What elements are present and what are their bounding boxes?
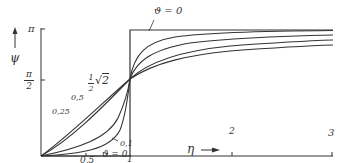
y-tick-pi: π (28, 24, 35, 34)
curve-half-sqrt2 (41, 45, 333, 156)
x-arrow-icon (212, 148, 220, 153)
curve-0-1 (41, 31, 333, 157)
label-theta-0-bottom: ϑ = 0 (102, 150, 127, 159)
label-0-5: 0,5 (71, 94, 84, 102)
label-0-1: 0,1 (120, 140, 133, 148)
chart-plot (0, 0, 342, 163)
y-tick-pi-half: π 2 (24, 70, 34, 91)
curve-theta-0 (41, 30, 333, 156)
y-arrow-icon (13, 27, 18, 34)
x-axis-label: η (187, 143, 194, 155)
label-theta-0-top: ϑ = 0 (154, 6, 182, 16)
x-tick-1: 1 (127, 155, 133, 163)
x-tick-0-5: 0,5 (80, 156, 94, 163)
label-0-25: 0,25 (52, 108, 70, 116)
y-axis-label: ψ (10, 52, 19, 64)
x-tick-3: 3 (328, 128, 334, 138)
label-half-sqrt2-radical: √2 (95, 75, 109, 86)
x-tick-2: 2 (229, 127, 235, 136)
label-half-sqrt2-frac: 1 2 (88, 74, 94, 93)
